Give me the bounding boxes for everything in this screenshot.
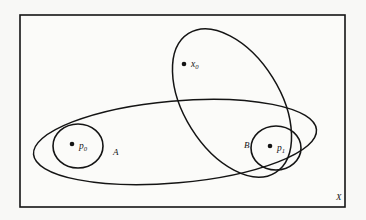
set-b-label: B xyxy=(244,140,250,150)
universe-label: X xyxy=(335,192,342,202)
set-diagram-figure: x0 p0 p1 A B X xyxy=(0,0,366,220)
point-p0-marker xyxy=(70,142,75,147)
point-x0-marker xyxy=(182,62,187,67)
point-p1-marker xyxy=(268,144,273,149)
set-a-label: A xyxy=(112,147,119,157)
diagram-canvas: x0 p0 p1 A B X xyxy=(0,0,366,220)
